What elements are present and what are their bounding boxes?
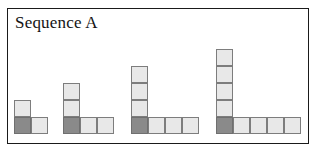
cell-corner (216, 117, 233, 134)
cell-vertical (14, 100, 31, 117)
cell-corner (63, 117, 80, 134)
cell-vertical (216, 49, 233, 66)
cell-vertical (216, 100, 233, 117)
cell-vertical (63, 83, 80, 100)
figure-term-4 (216, 0, 301, 134)
cell-horizontal (80, 117, 97, 134)
cell-horizontal (165, 117, 182, 134)
cell-vertical (63, 100, 80, 117)
cell-horizontal (284, 117, 301, 134)
figure-term-3 (131, 0, 199, 134)
cell-vertical (131, 66, 148, 83)
cell-horizontal (182, 117, 199, 134)
cell-horizontal (233, 117, 250, 134)
figure-term-2 (63, 0, 114, 134)
figures-layer (0, 0, 318, 153)
cell-horizontal (31, 117, 48, 134)
cell-horizontal (148, 117, 165, 134)
cell-vertical (131, 83, 148, 100)
cell-horizontal (267, 117, 284, 134)
cell-vertical (216, 83, 233, 100)
cell-horizontal (97, 117, 114, 134)
sequence-diagram-page: Sequence A (0, 0, 318, 153)
cell-horizontal (250, 117, 267, 134)
cell-vertical (131, 100, 148, 117)
figure-term-1 (14, 0, 48, 134)
cell-vertical (216, 66, 233, 83)
cell-corner (131, 117, 148, 134)
cell-corner (14, 117, 31, 134)
